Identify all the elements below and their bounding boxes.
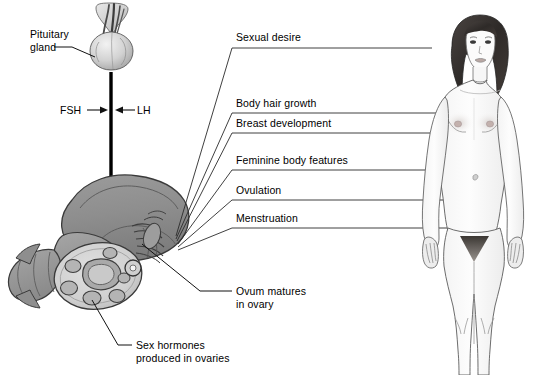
label-ovum-matures: Ovum matures in ovary: [236, 285, 346, 310]
label-ovum-line2: in ovary: [236, 298, 274, 310]
label-fsh: FSH: [60, 104, 81, 117]
label-menstruation: Menstruation: [236, 212, 298, 225]
female-body-icon: [422, 15, 523, 375]
label-sex-hormones: Sex hormones produced in ovaries: [136, 339, 276, 364]
label-sex-hormones-line1: Sex hormones: [136, 339, 205, 351]
label-body-hair-growth: Body hair growth: [236, 97, 316, 110]
pituitary-gland-icon: [90, 3, 133, 70]
label-feminine-body-features: Feminine body features: [236, 154, 348, 167]
label-ovulation: Ovulation: [236, 184, 281, 197]
fsh-arrow-icon: [87, 107, 108, 114]
label-breast-development: Breast development: [236, 117, 331, 130]
label-pituitary-line2: gland: [30, 41, 56, 53]
diagram-canvas: Pituitary gland FSH LH Sexual desire Bod…: [0, 0, 549, 375]
label-sexual-desire: Sexual desire: [236, 31, 301, 44]
label-lh: LH: [137, 104, 151, 117]
label-sex-hormones-line2: produced in ovaries: [136, 352, 230, 364]
lh-arrow-icon: [115, 107, 135, 114]
label-ovum-line1: Ovum matures: [236, 285, 306, 297]
label-pituitary-gland: Pituitary gland: [30, 28, 92, 53]
label-pituitary-line1: Pituitary: [30, 28, 69, 40]
